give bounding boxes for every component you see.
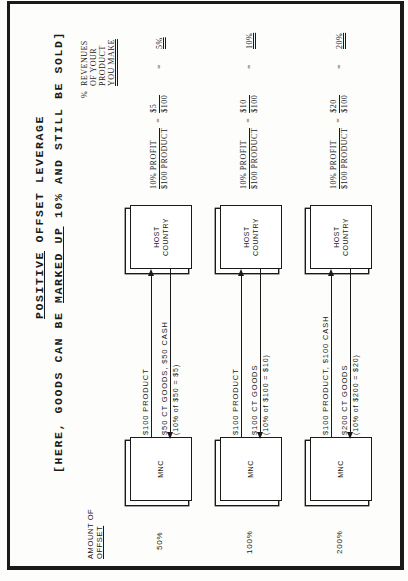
offset-amount: 200% xyxy=(335,530,344,554)
host-label-line1: HOST xyxy=(153,206,162,268)
arrow-to-mnc xyxy=(170,268,171,433)
revenues-line3: PRODUCT xyxy=(98,39,107,86)
revenues-line4: YOU MAKE xyxy=(107,39,116,86)
flow-note: (10% of $100 = $10) xyxy=(262,354,270,435)
arrow-to-mnc xyxy=(350,268,351,433)
flow-to-host-label: $100 PRODUCT xyxy=(141,368,150,435)
equals-sign: = xyxy=(244,118,254,123)
numerator-left: 10% PROFIT xyxy=(239,128,250,189)
profit-formula: 10% PROFIT$100 PRODUCT=$10$100 xyxy=(239,95,259,189)
fraction-left: 10% PROFIT$100 PRODUCT xyxy=(239,128,259,189)
profit-formula: 10% PROFIT$100 PRODUCT=$5$100 xyxy=(149,95,169,189)
denominator-left: $100 PRODUCT xyxy=(340,128,350,189)
result-cell: = 10% xyxy=(245,33,254,69)
mnc-box: MNC xyxy=(130,437,192,501)
arrow-to-host xyxy=(151,276,152,438)
host-country-box: HOST COUNTRY xyxy=(220,205,282,269)
host-label-line1: HOST xyxy=(243,206,252,268)
amount-label-line2: OFFSET xyxy=(95,509,104,559)
title-rest: OFFSET LEVERAGE xyxy=(33,115,46,251)
result-equals: = xyxy=(335,64,344,69)
denominator-right: $100 xyxy=(250,95,260,113)
result-value: 20% xyxy=(335,33,344,49)
flow-note: (10% of $200 = $20) xyxy=(352,354,360,435)
denominator-left: $100 PRODUCT xyxy=(160,128,170,189)
page-title: POSITIVE OFFSET LEVERAGE xyxy=(33,115,46,319)
flow-to-host-label: $100 PRODUCT xyxy=(231,368,240,435)
revenues-heading: % REVENUES OF YOUR PRODUCT YOU MAKE xyxy=(80,39,116,86)
fraction-right: $5$100 xyxy=(149,95,169,113)
mnc-label: MNC xyxy=(337,438,346,500)
fraction-right: $20$100 xyxy=(329,95,349,113)
host-country-box: HOST COUNTRY xyxy=(310,205,372,269)
equals-sign: = xyxy=(154,118,164,123)
equals-sign: = xyxy=(334,118,344,123)
denominator-right: $100 xyxy=(340,95,350,113)
result-value: 5% xyxy=(155,37,164,49)
arrow-right-icon xyxy=(148,269,154,276)
numerator-left: 10% PROFIT xyxy=(149,128,160,189)
fraction-left: 10% PROFIT$100 PRODUCT xyxy=(329,128,349,189)
host-country-label: HOST COUNTRY xyxy=(153,206,170,268)
host-label-line2: COUNTRY xyxy=(341,206,350,268)
document-page: POSITIVE OFFSET LEVERAGE [HERE, GOODS CA… xyxy=(0,0,408,581)
profit-formula: 10% PROFIT$100 PRODUCT=$20$100 xyxy=(329,95,349,189)
mnc-label: MNC xyxy=(247,438,256,500)
flow-to-host-label: $100 PRODUCT, $100 CASH xyxy=(321,316,330,436)
amount-label-line1: AMOUNT OF xyxy=(86,509,95,559)
fraction-left: 10% PROFIT$100 PRODUCT xyxy=(149,128,169,189)
mnc-label: MNC xyxy=(157,438,166,500)
result-equals: = xyxy=(155,64,164,69)
title-underlined-word: POSITIVE xyxy=(33,251,46,319)
numerator-left: 10% PROFIT xyxy=(329,128,340,189)
arrow-right-icon xyxy=(328,269,334,276)
subtitle-marked-up: MARKED UP xyxy=(52,226,65,303)
numerator-right: $20 xyxy=(329,95,340,113)
denominator-left: $100 PRODUCT xyxy=(250,128,260,189)
result-cell: = 20% xyxy=(335,33,344,69)
page-subtitle: [HERE, GOODS CAN BE MARKED UP 10% AND ST… xyxy=(52,31,65,473)
host-country-label: HOST COUNTRY xyxy=(333,206,350,268)
arrow-to-host xyxy=(331,276,332,438)
offset-amount: 100% xyxy=(245,530,254,554)
host-label-line2: COUNTRY xyxy=(161,206,170,268)
revenues-line2: OF YOUR xyxy=(89,39,98,86)
result-cell: = 5% xyxy=(155,37,164,69)
amount-of-offset-heading: AMOUNT OF OFFSET xyxy=(86,509,104,559)
denominator-right: $100 xyxy=(160,95,170,113)
flow-to-mnc-label: $50 CT GOODS, $50 CASH xyxy=(160,321,169,435)
offset-amount: 50% xyxy=(155,532,164,550)
arrow-to-host xyxy=(241,276,242,438)
host-label-line2: COUNTRY xyxy=(251,206,260,268)
host-country-box: HOST COUNTRY xyxy=(130,205,192,269)
flow-to-mnc-label: $100 CT GOODS xyxy=(250,365,259,435)
arrow-to-mnc xyxy=(260,268,261,433)
flow-note: (10% of $50 = $5) xyxy=(172,364,180,435)
percent-symbol: % xyxy=(80,91,89,98)
arrow-right-icon xyxy=(238,269,244,276)
revenues-line1: REVENUES xyxy=(80,39,89,86)
result-equals: = xyxy=(245,64,254,69)
host-label-line1: HOST xyxy=(333,206,342,268)
result-value: 10% xyxy=(245,33,254,49)
subtitle-pre: [HERE, GOODS CAN BE xyxy=(52,303,65,473)
fraction-right: $10$100 xyxy=(239,95,259,113)
mnc-box: MNC xyxy=(220,437,282,501)
host-country-label: HOST COUNTRY xyxy=(243,206,260,268)
subtitle-post: 10% AND STILL BE SOLD] xyxy=(52,31,65,227)
numerator-right: $10 xyxy=(239,95,250,113)
mnc-box: MNC xyxy=(310,437,372,501)
numerator-right: $5 xyxy=(149,95,160,113)
flow-to-mnc-label: $200 CT GOODS xyxy=(340,365,349,435)
